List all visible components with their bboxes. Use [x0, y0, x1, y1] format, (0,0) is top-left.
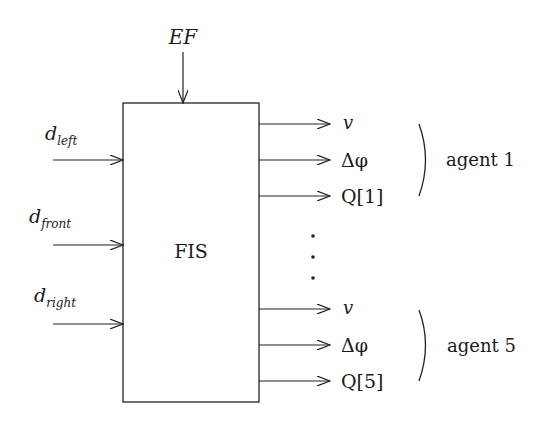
fis-label: FIS	[174, 240, 208, 262]
input-label-front: dfront	[29, 205, 71, 231]
agent-1-brace	[419, 124, 426, 196]
output-label-dphi-1: Δφ	[341, 149, 368, 171]
ef-label: EF	[168, 25, 199, 49]
agent-1-label: agent 1	[446, 149, 515, 170]
ellipsis-dot	[311, 234, 315, 238]
ellipsis-dot	[311, 276, 315, 280]
ellipsis-dot	[311, 255, 315, 259]
output-label-q-5: Q[5]	[341, 370, 384, 392]
output-label-q-1: Q[1]	[341, 185, 384, 207]
fis-diagram: FIS EF dleft dfront dright v Δφ Q[1] age…	[0, 0, 555, 424]
output-label-v-5: v	[343, 297, 353, 318]
agent-5-brace	[419, 310, 426, 381]
input-label-right: dright	[34, 284, 76, 310]
output-label-v-1: v	[343, 112, 353, 133]
input-label-left: dleft	[45, 122, 78, 148]
agent-5-label: agent 5	[447, 335, 516, 356]
output-label-dphi-5: Δφ	[341, 334, 368, 356]
